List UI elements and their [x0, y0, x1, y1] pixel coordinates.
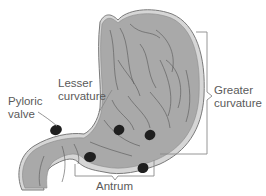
lesser-curvature-line2: curvature: [58, 90, 106, 103]
pyloric-valve-label: Pyloric valve: [8, 95, 43, 121]
stomach-body: [23, 14, 200, 188]
greater-curvature-line1: Greater: [214, 84, 262, 97]
greater-curvature-label: Greater curvature: [214, 84, 262, 110]
lesser-curvature-label: Lesser curvature: [58, 77, 106, 103]
pyloric-valve-line1: Pyloric: [8, 95, 43, 108]
greater-curvature-line2: curvature: [214, 97, 262, 110]
antrum-text: Antrum: [96, 180, 133, 192]
lesser-curvature-line1: Lesser: [58, 77, 106, 90]
pyloric-valve-line2: valve: [8, 108, 43, 121]
antrum-label: Antrum: [96, 180, 133, 193]
stomach-diagram: Lesser curvature Pyloric valve Greater c…: [0, 0, 266, 196]
